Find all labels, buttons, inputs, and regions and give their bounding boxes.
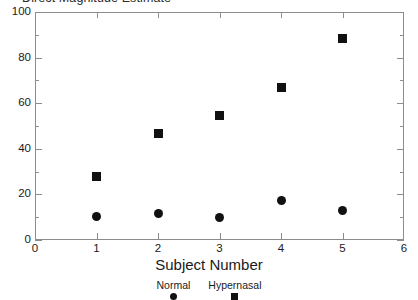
y-axis-minor-tick — [35, 217, 39, 218]
y-axis-minor-tick — [35, 172, 39, 173]
legend-label-hypernasal: Hypernasal — [208, 279, 261, 291]
y-axis-tick — [35, 103, 42, 104]
data-point — [277, 83, 286, 92]
data-point — [338, 34, 347, 43]
x-axis-tick — [343, 233, 344, 240]
y-axis-label: 80 — [3, 52, 31, 64]
x-axis-label: 2 — [146, 243, 170, 255]
y-axis-tick-right — [397, 103, 404, 104]
chart-legend: Normal Hypernasal — [0, 279, 418, 300]
legend-marker-circle-icon — [170, 293, 177, 300]
y-axis-minor-tick — [35, 126, 39, 127]
legend-item-normal: Normal — [157, 279, 191, 300]
data-point — [154, 209, 163, 218]
x-axis-label: 6 — [392, 243, 416, 255]
y-axis-label: 20 — [3, 188, 31, 200]
x-axis-label: 5 — [331, 243, 355, 255]
x-axis-label: 3 — [208, 243, 232, 255]
data-point — [215, 213, 224, 222]
x-axis-title: Subject Number — [0, 256, 418, 273]
data-point — [215, 111, 224, 120]
plot-area — [35, 12, 404, 240]
x-axis-label: 1 — [85, 243, 109, 255]
x-axis-tick-top — [343, 13, 344, 18]
x-axis-tick — [158, 233, 159, 240]
y-axis-label: 40 — [3, 143, 31, 155]
data-point — [277, 196, 286, 205]
y-axis-label: 60 — [3, 97, 31, 109]
data-point — [92, 212, 101, 221]
x-axis-tick — [281, 233, 282, 240]
data-point — [338, 206, 347, 215]
legend-label-normal: Normal — [157, 279, 191, 291]
y-axis-tick — [35, 12, 42, 13]
y-axis-tick — [35, 194, 42, 195]
y-axis-minor-tick-right — [400, 35, 404, 36]
x-axis-tick — [97, 233, 98, 240]
x-axis-tick — [220, 233, 221, 240]
data-point — [154, 129, 163, 138]
x-axis-label: 0 — [23, 243, 47, 255]
y-axis-tick-right — [397, 12, 404, 13]
y-axis-tick — [35, 240, 42, 241]
y-axis-minor-tick-right — [400, 172, 404, 173]
y-axis-minor-tick — [35, 35, 39, 36]
chart-title: Direct Magnitude Estimate — [22, 0, 171, 5]
legend-item-hypernasal: Hypernasal — [208, 279, 261, 300]
y-axis-minor-tick — [35, 80, 39, 81]
x-axis-tick-top — [281, 13, 282, 18]
x-axis-label: 4 — [269, 243, 293, 255]
y-axis-tick-right — [397, 194, 404, 195]
y-axis-minor-tick-right — [400, 80, 404, 81]
y-axis-minor-tick-right — [400, 126, 404, 127]
y-axis-tick — [35, 58, 42, 59]
y-axis-tick-right — [397, 58, 404, 59]
x-axis-tick-top — [97, 13, 98, 18]
x-axis-tick-top — [158, 13, 159, 18]
y-axis-label: 100 — [3, 6, 31, 18]
legend-marker-square-icon — [231, 293, 238, 300]
y-axis-tick-right — [397, 149, 404, 150]
data-point — [92, 172, 101, 181]
y-axis-tick — [35, 149, 42, 150]
y-axis-tick-right — [397, 240, 404, 241]
x-axis-tick-top — [220, 13, 221, 18]
y-axis-minor-tick-right — [400, 217, 404, 218]
